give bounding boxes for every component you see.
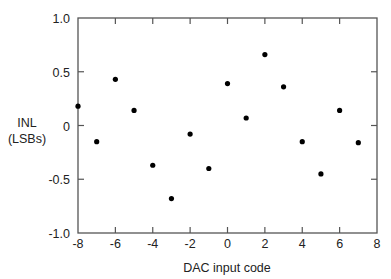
x-tick-label: -8 <box>72 237 83 251</box>
data-point <box>206 166 211 171</box>
data-point <box>337 108 342 113</box>
data-point <box>94 139 99 144</box>
plot-border <box>78 18 377 233</box>
data-point <box>75 104 80 109</box>
data-point <box>150 163 155 168</box>
x-tick-label: 2 <box>261 237 268 251</box>
data-point <box>318 171 323 176</box>
data-point <box>225 81 230 86</box>
data-point <box>356 140 361 145</box>
plot-frame <box>78 18 377 233</box>
y-axis-ticks: 1.00.50-0.5-1.0 <box>48 12 377 241</box>
data-point <box>281 84 286 89</box>
data-point <box>113 77 118 82</box>
y-tick-label: 0.5 <box>53 66 70 80</box>
y-tick-label: -1.0 <box>48 227 70 241</box>
data-point <box>300 139 305 144</box>
data-point <box>244 115 249 120</box>
x-tick-label: 4 <box>299 237 306 251</box>
x-tick-label: -6 <box>110 237 121 251</box>
x-tick-label: -2 <box>185 237 196 251</box>
x-tick-label: 6 <box>336 237 343 251</box>
data-point <box>188 132 193 137</box>
data-points <box>75 52 361 201</box>
y-tick-label: 1.0 <box>53 12 70 26</box>
x-tick-label: -4 <box>147 237 158 251</box>
x-axis-ticks: -8-6-4-202468 <box>72 18 380 251</box>
data-point <box>131 108 136 113</box>
inl-scatter-chart: -8-6-4-202468 1.00.50-0.5-1.0 DAC input … <box>0 0 391 279</box>
data-point <box>262 52 267 57</box>
y-tick-label: -0.5 <box>48 173 70 187</box>
data-point <box>169 196 174 201</box>
x-tick-label: 0 <box>224 237 231 251</box>
y-axis-title-line1: INL <box>17 116 37 130</box>
x-tick-label: 8 <box>374 237 381 251</box>
y-tick-label: 0 <box>63 120 70 134</box>
x-axis-title: DAC input code <box>183 261 271 275</box>
y-axis-title-line2: (LSBs) <box>8 132 46 146</box>
